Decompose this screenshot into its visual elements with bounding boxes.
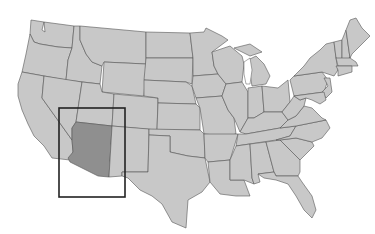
state-maine[interactable] [346, 18, 370, 58]
state-massachusetts[interactable] [336, 58, 358, 66]
us-map [0, 0, 375, 234]
state-colorado[interactable] [112, 94, 158, 130]
lake-michigan [244, 58, 252, 84]
state-wyoming[interactable] [102, 62, 146, 96]
state-arizona[interactable] [68, 122, 112, 177]
state-new-mexico[interactable] [109, 126, 149, 177]
state-connecticut[interactable] [336, 66, 352, 76]
state-florida[interactable] [258, 172, 316, 218]
state-north-dakota[interactable] [146, 32, 193, 58]
state-new-york[interactable] [294, 42, 338, 76]
state-kansas[interactable] [157, 103, 200, 130]
